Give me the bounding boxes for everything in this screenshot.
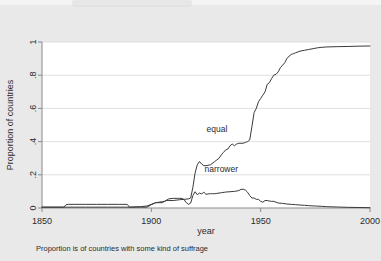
suffrage-line-chart: 0.2.4.6.81 1850190019502000 equalnarrowe… [0, 0, 381, 261]
y-tick-label: .8 [28, 71, 38, 79]
chart-caption: Proportion is of countries with some kin… [36, 244, 208, 253]
chart-figure: 0.2.4.6.81 1850190019502000 equalnarrowe… [0, 0, 381, 261]
y-tick-label: 0 [28, 205, 38, 210]
y-tick-label: .4 [28, 138, 38, 146]
y-axis-title: Proportion of countries [5, 79, 15, 170]
x-tick-label: 1950 [251, 216, 271, 226]
series-label-equal: equal [207, 124, 228, 134]
x-axis-ticks: 1850190019502000 [32, 208, 380, 226]
x-tick-label: 1850 [32, 216, 52, 226]
y-tick-label: .6 [28, 105, 38, 113]
series-label-narrower: narrower [205, 164, 239, 174]
x-axis-title: year [197, 226, 215, 236]
y-axis-ticks: 0.2.4.6.81 [28, 39, 42, 210]
x-tick-label: 2000 [360, 216, 380, 226]
y-tick-label: .2 [28, 171, 38, 179]
y-tick-label: 1 [28, 39, 38, 44]
x-tick-label: 1900 [141, 216, 161, 226]
